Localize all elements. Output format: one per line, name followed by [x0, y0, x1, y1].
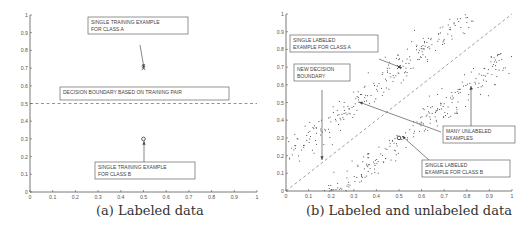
- unlabeled-point: [406, 63, 407, 64]
- unlabeled-point: [357, 96, 358, 97]
- x-tick-label: 0.7: [441, 193, 448, 199]
- unlabeled-point: [436, 120, 437, 121]
- unlabeled-point: [483, 75, 484, 76]
- arrow-unlabeled-2-head: [469, 86, 472, 90]
- unlabeled-point: [464, 74, 465, 75]
- unlabeled-point: [376, 159, 377, 160]
- unlabeled-point: [369, 103, 370, 104]
- unlabeled-point: [366, 164, 367, 165]
- x-tick-label: 0.5: [140, 194, 147, 200]
- unlabeled-point: [455, 92, 456, 93]
- unlabeled-point: [499, 60, 500, 61]
- unlabeled-point: [332, 144, 333, 145]
- y-tick-label: 0: [25, 189, 28, 195]
- unlabeled-point: [361, 174, 362, 175]
- unlabeled-point: [374, 101, 375, 102]
- unlabeled-point: [428, 38, 429, 39]
- unlabeled-point: [454, 22, 455, 23]
- unlabeled-point: [429, 96, 430, 97]
- unlabeled-point: [339, 114, 340, 115]
- unlabeled-point: [440, 27, 441, 28]
- unlabeled-point: [457, 19, 458, 20]
- unlabeled-point: [465, 14, 466, 15]
- unlabeled-point: [418, 52, 419, 53]
- unlabeled-point: [394, 143, 395, 144]
- unlabeled-point: [452, 39, 453, 40]
- unlabeled-point: [315, 140, 316, 141]
- unlabeled-point: [421, 125, 422, 126]
- unlabeled-point: [352, 107, 353, 108]
- unlabeled-point: [431, 38, 432, 39]
- unlabeled-point: [495, 69, 496, 70]
- y-tick-label: 0.7: [277, 64, 284, 70]
- unlabeled-point: [324, 129, 325, 130]
- y-tick-label: 1: [281, 11, 284, 17]
- unlabeled-point: [491, 56, 492, 57]
- y-tick-label: 0.4: [21, 118, 28, 124]
- unlabeled-point: [361, 176, 362, 177]
- unlabeled-point: [456, 112, 457, 113]
- y-tick-label: 0.7: [21, 65, 28, 71]
- unlabeled-point: [337, 110, 338, 111]
- unlabeled-point: [388, 89, 389, 90]
- unlabeled-point: [482, 85, 483, 86]
- unlabeled-point: [342, 117, 343, 118]
- unlabeled-point: [387, 70, 388, 71]
- x-tick-label: 0.4: [117, 194, 124, 200]
- unlabeled-point: [444, 39, 445, 40]
- unlabeled-point: [427, 130, 428, 131]
- unlabeled-point: [426, 42, 427, 43]
- unlabeled-point: [486, 81, 487, 82]
- unlabeled-point: [496, 76, 497, 77]
- plot-content-b: SINGLE LABELEDEXAMPLE FOR CLASS ANEW DEC…: [286, 14, 515, 192]
- unlabeled-point: [344, 102, 345, 103]
- unlabeled-point: [329, 188, 330, 189]
- unlabeled-point: [366, 100, 367, 101]
- unlabeled-point: [468, 100, 469, 101]
- unlabeled-point: [295, 145, 296, 146]
- unlabeled-point: [423, 108, 424, 109]
- unlabeled-point: [458, 102, 459, 103]
- y-tick-label: 0.5: [21, 101, 28, 107]
- unlabeled-point: [353, 92, 354, 93]
- annotation-class-a-text: EXAMPLE FOR CLASS A: [293, 44, 351, 50]
- unlabeled-point: [320, 135, 321, 136]
- unlabeled-point: [454, 113, 455, 114]
- unlabeled-point: [460, 27, 461, 28]
- unlabeled-point: [375, 165, 376, 166]
- unlabeled-point: [429, 46, 430, 47]
- unlabeled-point: [447, 34, 448, 35]
- unlabeled-point: [303, 147, 304, 148]
- unlabeled-point: [297, 138, 298, 139]
- unlabeled-point: [473, 68, 474, 69]
- unlabeled-point: [438, 34, 439, 35]
- arrow-unlabeled-1-head: [359, 102, 363, 105]
- unlabeled-point: [355, 98, 356, 99]
- unlabeled-point: [402, 139, 403, 140]
- y-tick-label: 1: [25, 12, 28, 18]
- unlabeled-point: [447, 113, 448, 114]
- unlabeled-point: [446, 97, 447, 98]
- unlabeled-point: [352, 161, 353, 162]
- unlabeled-point: [387, 72, 388, 73]
- unlabeled-point: [289, 159, 290, 160]
- unlabeled-point: [365, 177, 366, 178]
- unlabeled-point: [443, 40, 444, 41]
- unlabeled-point: [312, 150, 313, 151]
- unlabeled-point: [364, 168, 365, 169]
- unlabeled-point: [390, 143, 391, 144]
- unlabeled-point: [466, 17, 467, 18]
- unlabeled-point: [396, 143, 397, 144]
- unlabeled-point: [460, 89, 461, 90]
- unlabeled-point: [474, 82, 475, 83]
- x-tick-label: 0.7: [185, 194, 192, 200]
- unlabeled-point: [495, 60, 496, 61]
- caption-a: (a) Labeled data: [96, 203, 204, 218]
- unlabeled-point: [435, 50, 436, 51]
- unlabeled-point: [419, 59, 420, 60]
- x-tick-label: 0.1: [305, 193, 312, 199]
- unlabeled-point: [404, 72, 405, 73]
- unlabeled-point: [443, 117, 444, 118]
- annotation-class-a-text: SINGLE TRAINING EXAMPLE: [91, 19, 160, 25]
- unlabeled-point: [465, 85, 466, 86]
